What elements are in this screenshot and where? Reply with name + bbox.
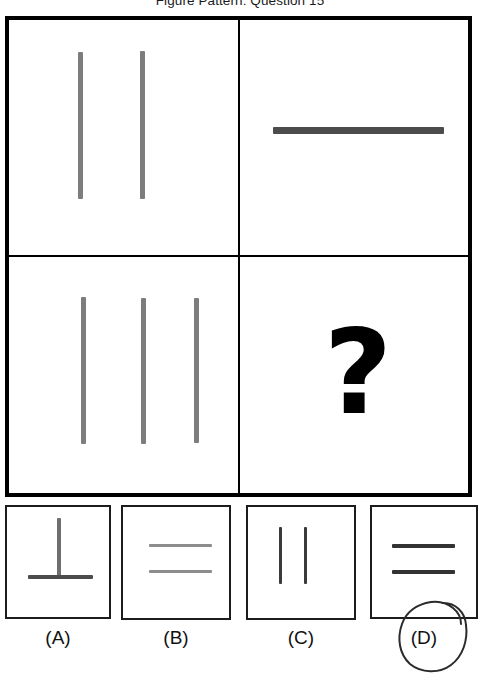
page-title: Figure Pattern: Question 15 <box>0 0 480 8</box>
question-mark-icon: ? <box>240 257 468 493</box>
horizontal-line-icon <box>149 570 212 573</box>
horizontal-line-icon <box>28 575 93 579</box>
vertical-bar-icon <box>194 298 199 443</box>
answer-option-c[interactable]: (C) <box>246 505 356 620</box>
vertical-bar-icon <box>81 297 86 444</box>
answer-option-d[interactable]: (D) <box>370 505 478 619</box>
answer-option-d-box[interactable] <box>370 505 478 619</box>
answer-option-c-box[interactable] <box>246 505 356 620</box>
vertical-line-icon <box>279 527 282 584</box>
horizontal-line-icon <box>392 570 455 574</box>
matrix-cell-top-right <box>240 20 468 255</box>
answer-option-d-label: (D) <box>370 627 478 649</box>
horizontal-line-icon <box>149 544 212 547</box>
answer-options-row: (A) (B) (C) (D) <box>0 505 480 676</box>
matrix-cell-bottom-right: ? <box>240 257 468 493</box>
vertical-line-icon <box>304 527 307 584</box>
horizontal-bar-icon <box>273 127 444 134</box>
answer-option-b-label: (B) <box>121 627 231 649</box>
answer-option-a[interactable]: (A) <box>5 505 111 619</box>
figure-matrix-grid: ? <box>5 16 472 497</box>
vertical-bar-icon <box>140 51 145 199</box>
horizontal-line-icon <box>392 544 455 548</box>
vertical-bar-icon <box>141 298 146 444</box>
matrix-cell-top-left <box>9 20 238 255</box>
answer-option-a-label: (A) <box>5 627 111 649</box>
answer-option-b[interactable]: (B) <box>121 505 231 620</box>
vertical-bar-icon <box>78 52 83 199</box>
answer-option-b-box[interactable] <box>121 505 231 620</box>
answer-option-c-label: (C) <box>246 627 356 649</box>
vertical-line-icon <box>57 518 61 576</box>
answer-option-a-box[interactable] <box>5 505 111 619</box>
matrix-cell-bottom-left <box>9 257 238 493</box>
